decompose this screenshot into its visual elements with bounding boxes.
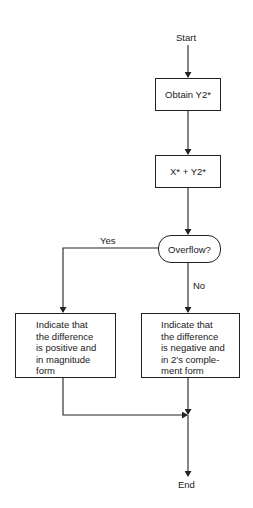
positive-line-2: the difference xyxy=(36,331,115,343)
add-text: X* + Y2* xyxy=(170,166,206,177)
arrow-positive-to-merge xyxy=(63,377,187,415)
positive-line-4: in magnitude xyxy=(36,354,115,366)
obtain-y2-box: Obtain Y2* xyxy=(155,78,221,111)
positive-line-5: form xyxy=(36,365,115,377)
arrow-yes-branch xyxy=(63,248,158,312)
add-box: X* + Y2* xyxy=(155,155,221,188)
positive-magnitude-box: Indicate that the difference is positive… xyxy=(15,313,116,378)
yes-label: Yes xyxy=(100,235,116,246)
negative-line-3: is negative and xyxy=(161,342,239,354)
no-label: No xyxy=(193,280,205,291)
overflow-decision: Overflow? xyxy=(158,235,221,263)
negative-line-2: the difference xyxy=(161,331,239,343)
positive-line-1: Indicate that xyxy=(36,319,115,331)
overflow-text: Overflow? xyxy=(168,244,211,255)
negative-complement-box: Indicate that the difference is negative… xyxy=(141,313,240,378)
negative-line-1: Indicate that xyxy=(161,319,239,331)
negative-line-4: in 2's comple- xyxy=(161,354,239,366)
positive-line-3: is positive and xyxy=(36,342,115,354)
end-label: End xyxy=(178,479,195,490)
negative-line-5: ment form xyxy=(161,365,239,377)
obtain-y2-text: Obtain Y2* xyxy=(165,89,211,100)
start-label: Start xyxy=(176,32,196,43)
